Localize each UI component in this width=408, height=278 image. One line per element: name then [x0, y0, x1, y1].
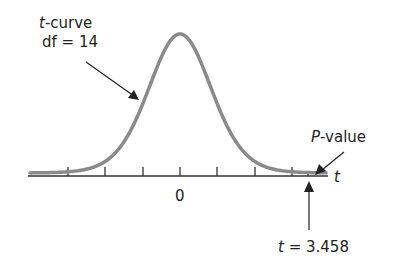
- curve-arrow-head-icon: [128, 90, 139, 100]
- df-label: df = 14: [42, 33, 98, 51]
- t-curve: [30, 34, 326, 173]
- tstat-label: t = 3.458: [278, 238, 349, 256]
- axis-label: t: [334, 168, 340, 186]
- tstat-arrow-head-icon: [304, 181, 314, 192]
- pvalue-label: P-value: [311, 128, 366, 146]
- zero-tick-label: 0: [175, 187, 185, 205]
- curve-label-arrow: [86, 62, 134, 96]
- pvalue-arrow: [322, 152, 344, 170]
- curve-label: t-curve: [39, 14, 92, 32]
